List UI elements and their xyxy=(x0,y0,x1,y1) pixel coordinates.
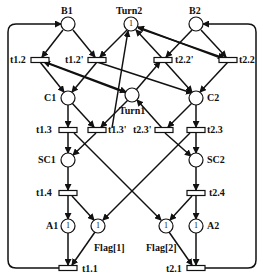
label-t2-2: t2.2 xyxy=(239,55,255,65)
label-a2: A2 xyxy=(207,221,219,231)
transition-t2-2p xyxy=(154,58,172,63)
place-c2 xyxy=(189,91,203,105)
label-flag2: Flag[2] xyxy=(146,243,177,253)
transition-t2-4 xyxy=(187,191,205,196)
transition-t1-2 xyxy=(31,58,49,63)
token-a2: 1 xyxy=(194,222,198,230)
transition-t2-3p xyxy=(155,128,173,133)
label-t2-2p: t2.2' xyxy=(175,55,194,65)
petri-net-diagram xyxy=(0,0,264,280)
place-sc1 xyxy=(61,153,75,167)
label-t1-1: t1.1 xyxy=(82,264,98,274)
label-t1-2p: t1.2' xyxy=(65,55,84,65)
transition-t1-3p xyxy=(88,128,106,133)
token-flag2: 1 xyxy=(164,222,168,230)
label-t1-3: t1.3 xyxy=(36,125,52,135)
label-t2-1: t2.1 xyxy=(166,264,182,274)
token-a1: 1 xyxy=(66,222,70,230)
transition-t2-2 xyxy=(219,58,237,63)
label-t2-3: t2.3 xyxy=(207,125,223,135)
transition-t1-4 xyxy=(59,191,77,196)
places xyxy=(61,17,203,233)
label-t1-4: t1.4 xyxy=(36,188,52,198)
transition-t2-3 xyxy=(187,128,205,133)
transition-t1-2p xyxy=(88,58,106,63)
label-t2-4: t2.4 xyxy=(209,188,225,198)
place-sc2 xyxy=(189,153,203,167)
transition-t1-1 xyxy=(59,266,77,271)
label-sc2: SC2 xyxy=(207,155,225,165)
transition-t2-1 xyxy=(187,266,205,271)
token-flag1: 1 xyxy=(96,222,100,230)
label-t1-2: t1.2 xyxy=(10,55,26,65)
token-turn2: 1 xyxy=(129,20,133,28)
label-sc1: SC1 xyxy=(38,155,56,165)
label-t2-3p: t2.3' xyxy=(133,125,152,135)
place-b1 xyxy=(61,17,75,31)
label-turn2: Turn2 xyxy=(116,6,142,16)
transition-t1-3 xyxy=(59,128,77,133)
label-b2: B2 xyxy=(189,6,201,16)
place-c1 xyxy=(61,91,75,105)
label-b1: B1 xyxy=(61,6,73,16)
label-t1-3p: t1.3' xyxy=(108,125,127,135)
label-a1: A1 xyxy=(46,221,58,231)
label-c1: C1 xyxy=(44,93,56,103)
label-c2: C2 xyxy=(207,93,219,103)
place-b2 xyxy=(189,17,203,31)
label-turn1: Turn1 xyxy=(119,106,145,116)
place-turn1 xyxy=(125,88,139,102)
label-flag1: Flag[1] xyxy=(94,243,125,253)
